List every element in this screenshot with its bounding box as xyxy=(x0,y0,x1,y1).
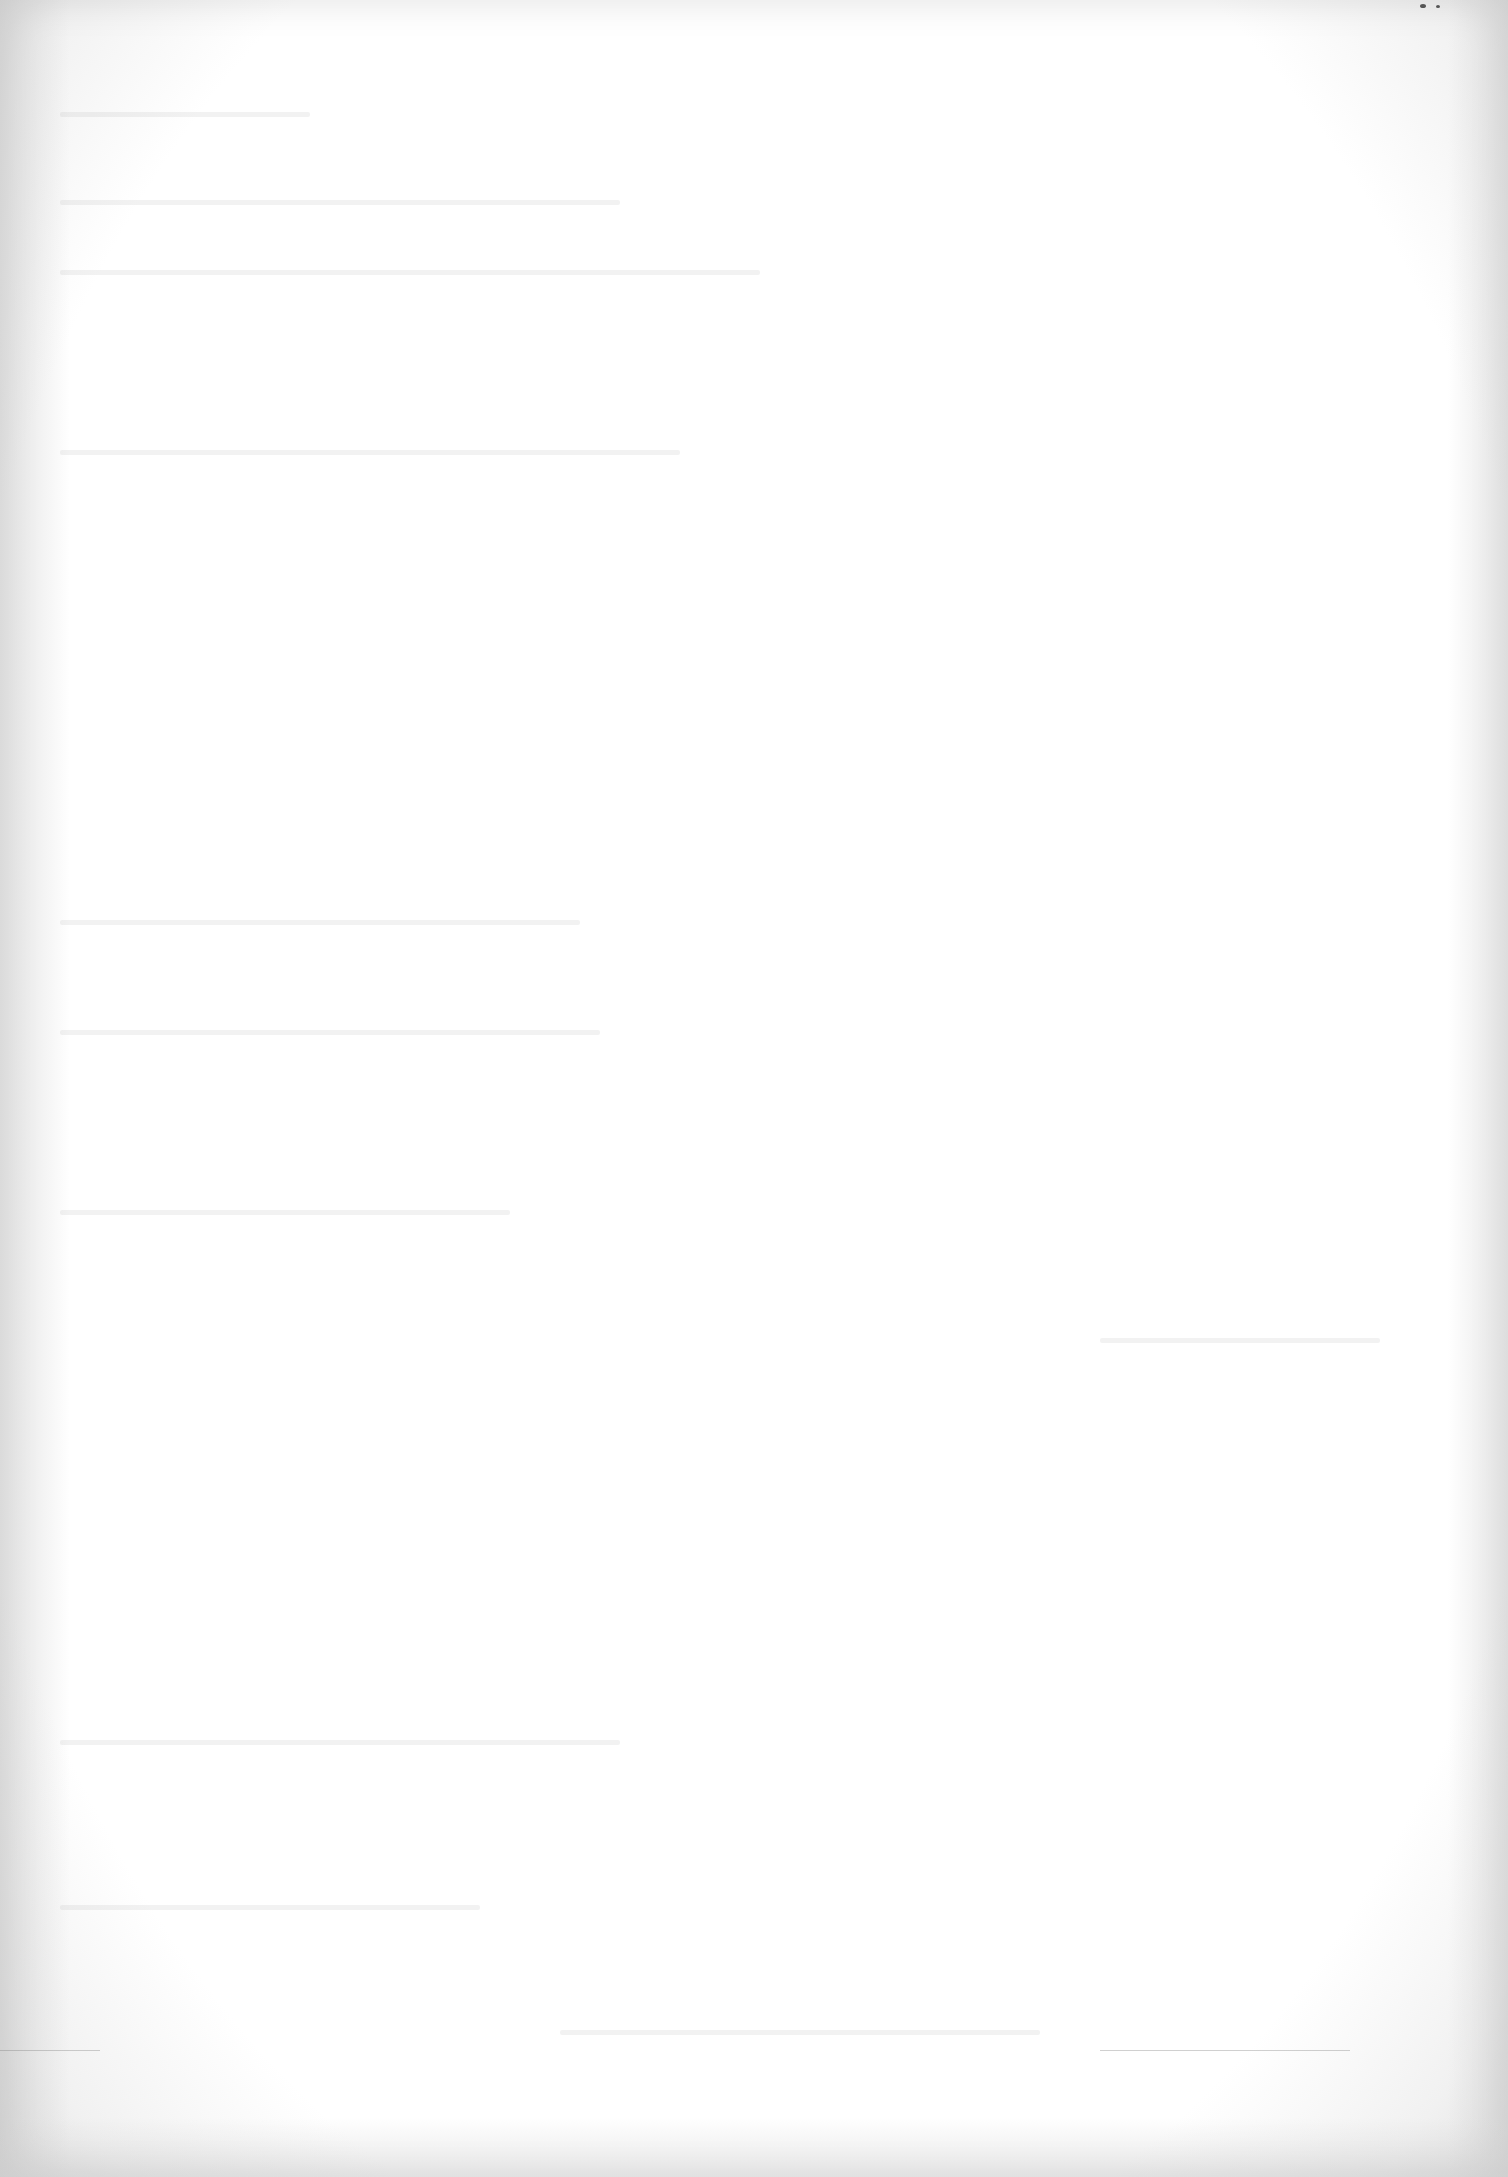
blank-scanned-page xyxy=(0,0,1508,2177)
bleed-through-line xyxy=(60,270,760,275)
bleed-through-line xyxy=(60,450,680,455)
scan-edge-shadow-right xyxy=(1448,0,1508,2177)
bleed-through-line xyxy=(60,1210,510,1215)
bleed-through-line xyxy=(60,1905,480,1910)
faint-rule-left xyxy=(0,2050,100,2051)
bleed-through-line xyxy=(60,1030,600,1035)
scan-edge-shadow-left xyxy=(0,0,70,2177)
bleed-through-line xyxy=(1100,1338,1380,1343)
scan-speck xyxy=(1436,5,1440,8)
bleed-through-line xyxy=(60,920,580,925)
faint-rule-right xyxy=(1100,2050,1350,2051)
bleed-through-line xyxy=(560,2030,1040,2035)
scan-edge-shadow-bottom xyxy=(0,2117,1508,2177)
bleed-through-line xyxy=(60,200,620,205)
scan-speck xyxy=(1420,4,1426,8)
bleed-through-line xyxy=(60,112,310,117)
bleed-through-line xyxy=(60,1740,620,1745)
